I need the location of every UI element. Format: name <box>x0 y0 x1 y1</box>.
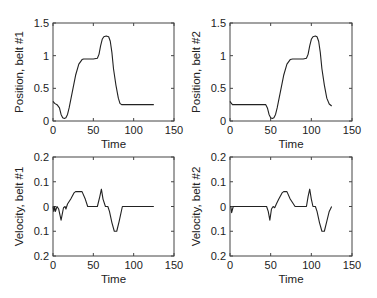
y-tick-label: 0.2 <box>211 250 226 262</box>
series-line <box>230 189 332 231</box>
series-line <box>53 36 154 118</box>
y-tick-label: 0.2 <box>34 250 49 262</box>
x-tick-label: 0 <box>227 259 233 271</box>
y-tick-label: 0 <box>220 115 226 127</box>
y-tick-label: 1.5 <box>34 17 49 29</box>
y-axis-label: Position, belt #1 <box>13 31 25 113</box>
chart-panel-vel2: 0501001500.20.100.10.2TimeVelocity, belt… <box>190 151 361 285</box>
x-axis-label: Time <box>278 138 303 150</box>
y-tick-label: 0.1 <box>211 225 226 237</box>
chart-panel-pos1: 05010015000.511.5TimePosition, belt #1 <box>13 17 183 150</box>
x-tick-label: 150 <box>343 259 361 271</box>
y-tick-label: 0.1 <box>211 176 226 188</box>
x-tick-label: 100 <box>124 124 142 136</box>
series-line <box>53 189 154 231</box>
y-tick-label: 0.1 <box>34 225 49 237</box>
y-tick-label: 0 <box>220 201 226 213</box>
y-axis-label: Velocity, belt #1 <box>13 167 25 247</box>
x-tick-label: 50 <box>265 259 277 271</box>
chart-panel-pos2: 05010015000.511.5TimePosition, belt #2 <box>190 17 361 150</box>
x-axis-label: Time <box>278 273 303 285</box>
x-tick-label: 50 <box>87 124 99 136</box>
plot-frame <box>53 157 174 256</box>
x-tick-label: 50 <box>265 124 277 136</box>
figure-canvas: 05010015000.511.5TimePosition, belt #105… <box>0 0 377 298</box>
y-tick-label: 1 <box>220 50 226 62</box>
y-axis-label: Velocity, belt #2 <box>190 167 202 247</box>
x-tick-label: 50 <box>87 259 99 271</box>
x-tick-label: 0 <box>227 124 233 136</box>
x-tick-label: 0 <box>50 259 56 271</box>
y-tick-label: 0.5 <box>211 82 226 94</box>
y-tick-label: 0 <box>43 115 49 127</box>
y-tick-label: 1.5 <box>211 17 226 29</box>
y-tick-label: 0.5 <box>34 82 49 94</box>
chart-panel-vel1: 0501001500.20.100.10.2TimeVelocity, belt… <box>13 151 183 285</box>
x-tick-label: 100 <box>302 124 320 136</box>
x-tick-label: 150 <box>165 124 183 136</box>
y-tick-label: 0.2 <box>211 151 226 163</box>
x-axis-label: Time <box>101 138 126 150</box>
x-tick-label: 0 <box>50 124 56 136</box>
x-axis-label: Time <box>101 273 126 285</box>
y-tick-label: 0.2 <box>34 151 49 163</box>
x-tick-label: 150 <box>343 124 361 136</box>
y-tick-label: 0 <box>43 201 49 213</box>
plot-frame <box>230 23 352 121</box>
series-line <box>230 36 332 118</box>
y-tick-label: 0.1 <box>34 176 49 188</box>
y-axis-label: Position, belt #2 <box>190 31 202 113</box>
x-tick-label: 100 <box>124 259 142 271</box>
x-tick-label: 150 <box>165 259 183 271</box>
x-tick-label: 100 <box>302 259 320 271</box>
y-tick-label: 1 <box>43 50 49 62</box>
